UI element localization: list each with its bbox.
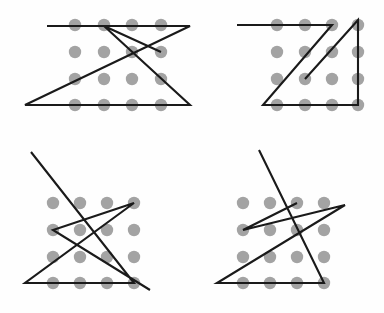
- grid-dot-r1-c3: [128, 224, 140, 236]
- panel-bottom-left-solution-path: [25, 152, 150, 290]
- grid-dot-r1-c1: [264, 224, 276, 236]
- grid-dot-r1-c1: [98, 46, 110, 58]
- panels-layer: [25, 19, 364, 290]
- grid-dot-r2-c2: [326, 73, 338, 85]
- dot-grid-puzzle-figure: [0, 0, 384, 313]
- panel-bottom-left: [25, 152, 150, 290]
- panel-top-right-solution-path: [237, 20, 358, 105]
- panel-bottom-right: [217, 150, 345, 289]
- panel-top-left: [25, 19, 190, 111]
- panel-top-right: [237, 19, 364, 111]
- figure-root: [0, 0, 384, 313]
- grid-dot-r2-c3: [318, 251, 330, 263]
- grid-dot-r0-c2: [101, 197, 113, 209]
- panel-top-left-solution-path: [25, 26, 190, 105]
- grid-dot-r1-c0: [69, 46, 81, 58]
- grid-dot-r2-c2: [291, 251, 303, 263]
- grid-dot-r2-c1: [98, 73, 110, 85]
- grid-dot-r2-c1: [74, 251, 86, 263]
- panel-bottom-right-solution-path: [217, 150, 345, 283]
- grid-dot-r2-c3: [128, 251, 140, 263]
- grid-dot-r2-c0: [237, 251, 249, 263]
- grid-dot-r1-c1: [74, 224, 86, 236]
- grid-dot-r0-c3: [318, 197, 330, 209]
- grid-dot-r2-c2: [126, 73, 138, 85]
- grid-dot-r1-c0: [271, 46, 283, 58]
- grid-dot-r1-c3: [318, 224, 330, 236]
- grid-dot-r0-c0: [237, 197, 249, 209]
- grid-dot-r0-c1: [264, 197, 276, 209]
- grid-dot-r0-c0: [47, 197, 59, 209]
